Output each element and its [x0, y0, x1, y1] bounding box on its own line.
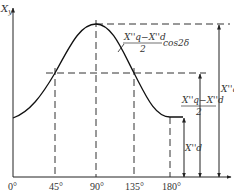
x-tick-0: 0°	[8, 181, 17, 192]
mid-formula: X''q−X''d 2	[181, 95, 224, 117]
max-label: X''q	[220, 84, 234, 94]
x-tick-45: 45°	[49, 181, 63, 192]
svg-text:cos2δ: cos2δ	[163, 38, 189, 48]
min-label: X''d	[184, 143, 202, 153]
svg-text:X''q−X''d: X''q−X''d	[123, 32, 166, 42]
y-axis-label: Xy	[0, 3, 13, 16]
x-tick-90: 90°	[90, 181, 104, 192]
svg-text:X''q−X''d: X''q−X''d	[181, 95, 224, 105]
x-tick-180: 180°	[162, 181, 181, 192]
x-tick-135: 135°	[125, 181, 144, 192]
svg-text:2: 2	[195, 107, 202, 117]
amplitude-formula: X''q−X''d 2 cos2δ	[123, 32, 189, 54]
reactance-vs-angle-diagram: Xy X''q−X''d 2 cos2δ X''q X''q−X''d 2 X'…	[0, 0, 234, 195]
svg-text:2: 2	[139, 44, 146, 54]
